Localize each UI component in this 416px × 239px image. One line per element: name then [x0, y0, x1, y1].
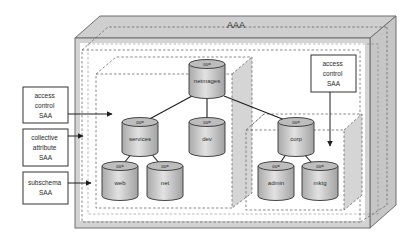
saa-left-2-line-3: SAA	[39, 154, 53, 161]
saa-box-collective-attribute: collective attribute SAA	[23, 129, 68, 166]
saa-right-line-2: control	[323, 70, 343, 77]
node-mktg-prefix: ou=	[316, 164, 324, 169]
node-dev: ou= dev	[189, 118, 225, 157]
saa-right-line-3: SAA	[327, 80, 341, 87]
node-netmages-label: netmages	[194, 78, 220, 84]
node-netmages: ou= netmages	[189, 60, 225, 99]
node-web: ou= web	[102, 162, 138, 201]
node-services-label: services	[129, 136, 151, 142]
node-mktg: ou= mktg	[302, 162, 338, 201]
saa-left-1-line-1: access	[34, 92, 55, 99]
node-services-prefix: ou=	[136, 120, 144, 125]
node-admin: ou= admin	[258, 162, 294, 201]
node-mktg-label: mktg	[313, 180, 326, 186]
node-net: ou= net	[147, 162, 183, 201]
node-admin-prefix: ou=	[272, 164, 280, 169]
saa-box-access-control-right: access control SAA	[311, 55, 356, 92]
node-net-prefix: ou=	[161, 164, 169, 169]
saa-box-subschema: subschema SAA	[23, 172, 68, 204]
node-corp-prefix: ou=	[292, 120, 300, 125]
directory-tree-diagram: AAA ou= netmages ou= services ou= dev ou…	[0, 0, 416, 239]
saa-left-3-line-1: subschema	[28, 179, 62, 186]
node-corp-label: corp	[290, 136, 302, 142]
aaa-box-side	[370, 16, 396, 228]
node-services: ou= services	[122, 118, 158, 157]
aaa-label: AAA	[227, 20, 245, 30]
saa-box-access-control-left: access control SAA	[23, 87, 68, 123]
saa-left-3-line-2: SAA	[39, 189, 53, 196]
saa-right-line-1: access	[322, 60, 343, 67]
node-dev-prefix: ou=	[203, 120, 211, 125]
saa-left-1-line-2: control	[35, 102, 55, 109]
saa-left-2-line-1: collective	[31, 134, 58, 141]
node-dev-label: dev	[202, 136, 212, 142]
node-net-label: net	[161, 180, 170, 186]
node-web-label: web	[113, 180, 126, 186]
saa-left-2-line-2: attribute	[33, 144, 57, 151]
saa-left-1-line-3: SAA	[39, 112, 53, 119]
corp-region-side	[344, 114, 362, 210]
node-admin-label: admin	[268, 180, 284, 186]
netmages-region-side	[232, 57, 252, 208]
node-web-prefix: ou=	[116, 164, 124, 169]
node-netmages-prefix: ou=	[203, 62, 211, 67]
node-corp: ou= corp	[278, 118, 314, 157]
